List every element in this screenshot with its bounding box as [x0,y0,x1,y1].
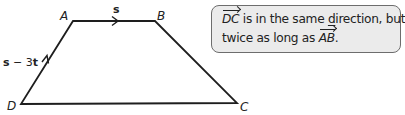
callout-line-1: DC is in the same direction, but [222,10,400,29]
callout-text-2a: twice as long as [222,31,319,45]
vertex-label-C: C [240,100,249,114]
edge-label-DA-minus: − 3 [10,56,33,69]
edge-label-DA-t: t [33,56,38,69]
vector-AB: AB [319,29,335,48]
edge-label-DA: s − 3t [3,56,38,69]
vertex-label-B: B [157,9,165,23]
trapezium-ABCD [21,21,237,104]
callout-text-1b: irection, but [335,12,405,26]
callout-line-2: twice as long as AB. [222,29,400,48]
vertex-label-D: D [7,99,16,113]
vertex-label-A: A [59,9,68,23]
info-callout-box: DC is in the same direction, but twice a… [211,5,401,53]
edge-label-AB: s [113,3,120,16]
callout-text-1a: is in the same [239,12,328,26]
vector-DC: DC [222,10,239,29]
callout-text-2b: . [335,31,339,45]
